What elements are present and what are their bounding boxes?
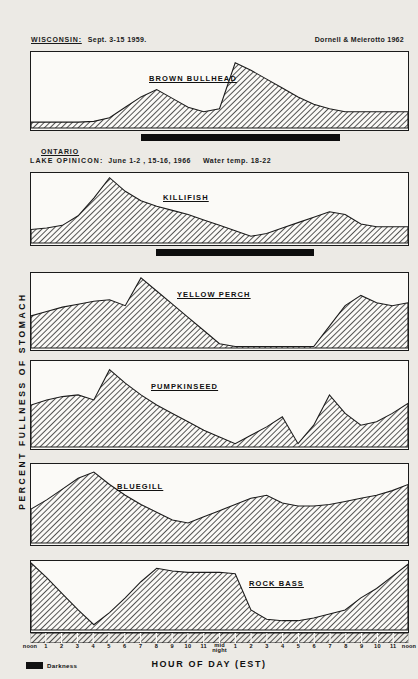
x-tick-label-6: 6 xyxy=(123,643,126,649)
x-tick-label-15: 3 xyxy=(265,643,268,649)
area-series-0 xyxy=(31,52,408,130)
area-series-1 xyxy=(31,173,408,245)
chart-panel-yellow-perch: YELLOW PERCH xyxy=(30,272,409,351)
x-tick-label-5: 5 xyxy=(107,643,110,649)
ontario-dates: June 1-2 , 15-16, 1966 xyxy=(108,157,191,164)
darkness-bar-brown-bullhead xyxy=(141,134,340,141)
x-tick-label-18: 6 xyxy=(313,643,316,649)
x-tick-label-4: 4 xyxy=(92,643,95,649)
x-tick-label-2: 2 xyxy=(60,643,63,649)
series-label-pumpkinseed: PUMPKINSEED xyxy=(151,382,218,391)
chart-panel-brown-bullhead: BROWN BULLHEAD xyxy=(30,51,409,131)
series-label-yellow-perch: YELLOW PERCH xyxy=(177,290,251,299)
wisconsin-header: WISCONSIN:Sept. 3-15 1959. xyxy=(31,36,147,43)
y-axis-title: PERCENT FULLNESS OF STOMACH xyxy=(17,291,27,511)
ontario-region-label: ONTARIO xyxy=(41,148,79,155)
plot-area-pumpkinseed xyxy=(31,361,408,449)
series-label-bluegill: BLUEGILL xyxy=(117,482,163,491)
x-tick-label-1: 1 xyxy=(44,643,47,649)
x-tick-label-11: 11 xyxy=(201,643,207,649)
x-tick-label-7: 7 xyxy=(139,643,142,649)
x-tick-label-24: noon xyxy=(402,643,416,649)
x-tick-label-12: midnight xyxy=(212,643,227,654)
x-tick-label-9: 9 xyxy=(170,643,173,649)
plot-area-yellow-perch xyxy=(31,273,408,350)
x-tick-label-23: 11 xyxy=(390,643,396,649)
chart-panel-bluegill: BLUEGILL xyxy=(30,463,409,546)
x-axis-tick-labels: noon1234567891011midnight1234567891011no… xyxy=(30,643,409,657)
ontario-lake-label: LAKE OPINICON: xyxy=(30,157,103,164)
x-tick-label-10: 10 xyxy=(185,643,192,649)
x-tick-label-0: noon xyxy=(23,643,37,649)
series-label-rock-bass: ROCK BASS xyxy=(249,579,304,588)
x-axis-title: HOUR OF DAY (EST) xyxy=(0,659,418,669)
series-label-killifish: KILLIFISH xyxy=(163,193,209,202)
wisconsin-dates: Sept. 3-15 1959. xyxy=(88,36,147,43)
figure-page: WISCONSIN:Sept. 3-15 1959. Dornell & Mei… xyxy=(0,0,418,679)
x-tick-label-22: 10 xyxy=(374,643,381,649)
x-tick-label-16: 4 xyxy=(281,643,284,649)
chart-panel-pumpkinseed: PUMPKINSEED xyxy=(30,360,409,450)
wisconsin-region-label: WISCONSIN: xyxy=(31,36,82,43)
x-axis-title-text: HOUR OF DAY (EST) xyxy=(151,659,266,669)
series-label-brown-bullhead: BROWN BULLHEAD xyxy=(149,74,237,83)
area-series-2 xyxy=(31,273,408,350)
x-tick-label-20: 8 xyxy=(344,643,347,649)
area-series-4 xyxy=(31,464,408,545)
x-tick-label-14: 2 xyxy=(249,643,252,649)
x-tick-label-21: 9 xyxy=(360,643,363,649)
x-tick-label-3: 3 xyxy=(76,643,79,649)
plot-area-rock-bass xyxy=(31,561,408,632)
plot-area-bluegill xyxy=(31,464,408,545)
area-series-3 xyxy=(31,361,408,449)
x-tick-label-13: 1 xyxy=(234,643,237,649)
citation-credit: Dornell & Meierotto 1962 xyxy=(315,36,404,43)
x-tick-label-19: 7 xyxy=(328,643,331,649)
darkness-bar-killifish xyxy=(156,249,314,256)
chart-panel-killifish: KILLIFISH xyxy=(30,172,409,246)
plot-area-killifish xyxy=(31,173,408,245)
ontario-water-temp: Water temp. 18-22 xyxy=(203,157,271,164)
chart-panel-rock-bass: ROCK BASS xyxy=(30,560,409,633)
area-series-5 xyxy=(31,561,408,632)
x-tick-label-17: 5 xyxy=(297,643,300,649)
plot-area-brown-bullhead xyxy=(31,52,408,130)
ontario-subheader: LAKE OPINICON:June 1-2 , 15-16, 1966Wate… xyxy=(30,157,271,164)
x-tick-label-8: 8 xyxy=(155,643,158,649)
